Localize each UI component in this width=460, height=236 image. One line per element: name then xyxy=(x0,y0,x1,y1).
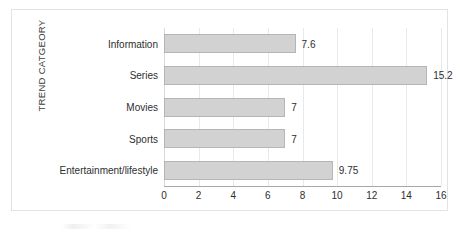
category-label: Series xyxy=(130,70,158,81)
bar-row: 7 xyxy=(164,98,441,117)
bar xyxy=(164,129,285,148)
bar-row: 15.2 xyxy=(164,66,441,85)
bar-value-label: 7 xyxy=(291,102,297,113)
bar xyxy=(164,98,285,117)
bar-value-label: 7 xyxy=(291,133,297,144)
x-tick-label: 4 xyxy=(230,190,236,201)
bar xyxy=(164,161,333,180)
x-tick-label: 16 xyxy=(435,190,446,201)
bar-value-label: 7.6 xyxy=(302,38,316,49)
x-tick-label: 14 xyxy=(401,190,412,201)
gridline xyxy=(441,28,442,186)
category-label: Entertainment/lifestyle xyxy=(60,165,158,176)
bar-row: 7.6 xyxy=(164,34,441,53)
page-caption-artifact xyxy=(62,224,158,229)
bar-row: 7 xyxy=(164,129,441,148)
chart-screenshot: TREND CATGEORY InformationSeriesMoviesSp… xyxy=(0,0,460,236)
bar xyxy=(164,34,296,53)
value-axis-baseline xyxy=(164,186,441,187)
bar-row: 9.75 xyxy=(164,161,441,180)
category-label: Information xyxy=(108,38,158,49)
category-axis-labels: InformationSeriesMoviesSportsEntertainme… xyxy=(30,28,158,186)
x-tick-label: 8 xyxy=(300,190,306,201)
x-tick-label: 0 xyxy=(161,190,167,201)
bar-value-label: 15.2 xyxy=(433,70,452,81)
plot-area: 7.615.2779.75 xyxy=(164,28,441,186)
x-tick-label: 10 xyxy=(332,190,343,201)
x-tick-label: 12 xyxy=(366,190,377,201)
category-label: Movies xyxy=(126,102,158,113)
x-tick-label: 6 xyxy=(265,190,271,201)
chart-frame: TREND CATGEORY InformationSeriesMoviesSp… xyxy=(11,9,448,211)
bar-value-label: 9.75 xyxy=(339,165,358,176)
category-label: Sports xyxy=(129,133,158,144)
value-axis-tick-labels: 0246810121416 xyxy=(164,190,441,206)
x-tick-label: 2 xyxy=(196,190,202,201)
bar xyxy=(164,66,427,85)
